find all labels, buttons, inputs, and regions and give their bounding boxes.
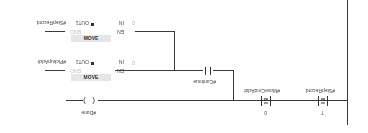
move-title: MOVE [71, 74, 111, 81]
move-eno: ENO [70, 68, 81, 74]
branch-wire [233, 71, 234, 101]
comparator-value: 0 [264, 110, 267, 116]
move-block-pickupaddr[interactable]: MOVE [71, 53, 111, 81]
move-block-steprecord[interactable]: MOVE [71, 14, 111, 42]
move-title: MOVE [71, 35, 111, 42]
move-en: EN [117, 29, 124, 35]
move-out: OUT1 [76, 59, 89, 65]
comparator-type: Int [262, 97, 270, 101]
coil-wire [66, 100, 83, 101]
move-out: OUT1 [76, 20, 89, 26]
comparator-operator: == [319, 101, 327, 105]
contact-operand: #Continue [193, 79, 216, 85]
branch-wire [174, 31, 175, 71]
move-out-operand: #StepRecord [37, 20, 66, 26]
power-rail [347, 0, 348, 125]
contact-continue[interactable] [203, 67, 213, 75]
branch-wire [135, 31, 175, 32]
comparator-operator: == [262, 101, 270, 105]
branch-wire [135, 70, 175, 71]
comparator-movecmdaddr[interactable]: == Int [261, 96, 271, 106]
move-in-value: 0 [132, 60, 135, 66]
comparator-value: 7 [321, 110, 324, 116]
move-eno: ENO [70, 29, 81, 35]
rung-wire [98, 100, 348, 101]
eno-wire [45, 31, 65, 32]
move-out-operand: #PickupAddr [38, 59, 66, 65]
comparator-operand: #MoveCmdAddr [244, 88, 280, 94]
comparator-type: Int [319, 97, 327, 101]
comparator-operand: #StepRecord [306, 88, 335, 94]
move-in: IN [119, 59, 124, 65]
move-out-icon [91, 62, 94, 65]
coil-done[interactable]: () [83, 97, 95, 105]
eno-wire [45, 70, 65, 71]
move-out-icon [91, 23, 94, 26]
move-in-value: 0 [132, 20, 135, 26]
ladder-network: 7 == Int #StepRecord 0 == Int #MoveCmdAd… [0, 0, 368, 133]
coil-operand: #Done [81, 110, 96, 116]
move-in: IN [119, 20, 124, 26]
move-en: EN [117, 68, 124, 74]
comparator-steprecord[interactable]: == Int [318, 96, 328, 106]
